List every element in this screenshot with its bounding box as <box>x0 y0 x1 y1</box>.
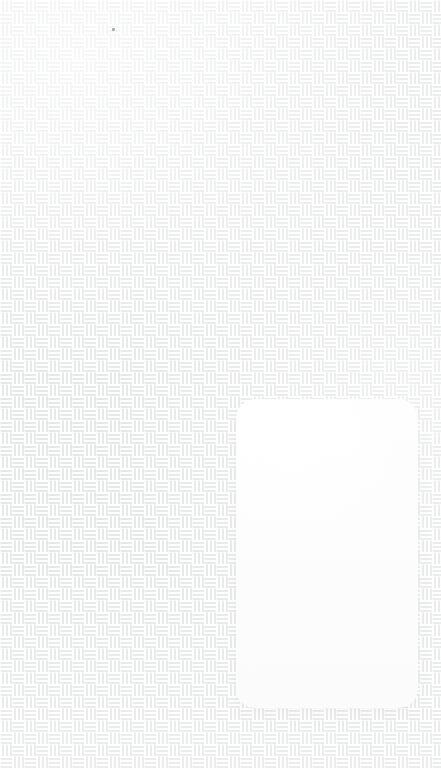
card-content <box>237 400 417 707</box>
dark-speck <box>112 28 115 31</box>
blank-white-card[interactable] <box>237 400 417 707</box>
screen-root <box>0 0 441 768</box>
